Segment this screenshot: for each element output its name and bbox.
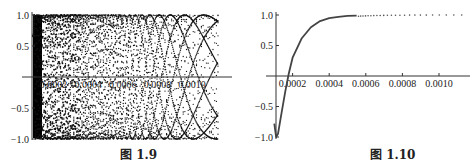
x-tick-label: 0.0006 xyxy=(352,78,380,89)
figure-pair: 1.00.5−0.5−1.00.00020.00040.00060.00080.… xyxy=(0,0,475,166)
x-tick-label: 0.0006 xyxy=(109,79,137,90)
y-tick-label: 0.5 xyxy=(261,40,274,51)
x-tick-label: 0.0008 xyxy=(144,79,172,90)
right-caption: 图 1.10 xyxy=(370,145,415,162)
y-tick-label: 1.0 xyxy=(17,10,30,21)
left-caption: 图 1.9 xyxy=(120,145,157,162)
x-tick-label: 0.0010 xyxy=(425,78,453,89)
y-tick-label: −0.5 xyxy=(255,101,273,112)
y-tick-label: 0.5 xyxy=(17,41,30,52)
x-tick-label: 0.0008 xyxy=(389,78,417,89)
left-plot: 1.00.5−0.5−1.00.00020.00040.00060.00080.… xyxy=(11,10,232,145)
curve-points xyxy=(358,14,463,17)
x-tick-label: 0.0002 xyxy=(279,78,307,89)
x-tick-label: 0.0002 xyxy=(40,79,68,90)
right-plot: 1.00.5−0.5−1.00.00020.00040.00060.00080.… xyxy=(255,10,470,143)
y-tick-label: −1.0 xyxy=(255,132,273,143)
x-tick-label: 0.0004 xyxy=(74,79,102,90)
y-tick-label: −1.0 xyxy=(11,134,29,145)
y-tick-label: −0.5 xyxy=(11,103,29,114)
y-tick-label: 1.0 xyxy=(261,10,274,21)
x-tick-label: 0.0004 xyxy=(315,78,343,89)
x-tick-label: 0.0010 xyxy=(178,79,206,90)
